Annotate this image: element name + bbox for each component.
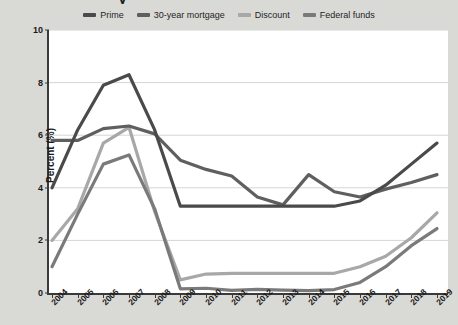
- legend-label: 30-year mortgage: [154, 10, 225, 20]
- y-axis-tick-label: 2: [38, 235, 43, 245]
- legend-item-prime[interactable]: Prime: [83, 10, 124, 20]
- y-axis-tick-label: 8: [38, 78, 43, 88]
- y-axis-tick-mark: [45, 82, 49, 83]
- legend-label: Discount: [255, 10, 290, 20]
- series-line-discount: [52, 127, 437, 280]
- legend-label: Federal funds: [320, 10, 375, 20]
- y-axis-tick-mark: [45, 135, 49, 136]
- legend-label: Prime: [100, 10, 124, 20]
- y-axis-tick-mark: [45, 293, 49, 294]
- legend-swatch-icon: [303, 13, 316, 17]
- chart-legend: Prime30-year mortgageDiscountFederal fun…: [0, 10, 458, 20]
- y-axis-tick-label: 10: [33, 25, 43, 35]
- y-axis-tick-label: 4: [38, 183, 43, 193]
- y-axis-tick-label: 6: [38, 130, 43, 140]
- legend-swatch-icon: [238, 13, 251, 17]
- y-axis-tick-label: 0: [38, 288, 43, 298]
- cropped-title: y: [118, 0, 127, 4]
- legend-item-discount[interactable]: Discount: [238, 10, 290, 20]
- legend-swatch-icon: [137, 13, 150, 17]
- y-axis-tick-mark: [45, 30, 49, 31]
- plot-area: Percent (%) 0246810200420052006200720082…: [47, 30, 448, 295]
- legend-item-federal-funds[interactable]: Federal funds: [303, 10, 375, 20]
- legend-swatch-icon: [83, 13, 96, 17]
- legend-item-30-year-mortgage[interactable]: 30-year mortgage: [137, 10, 225, 20]
- series-line-federal-funds: [52, 155, 437, 291]
- y-axis-tick-mark: [45, 240, 49, 241]
- chart-lines: [49, 30, 448, 293]
- y-axis-tick-mark: [45, 187, 49, 188]
- chart-page: y Prime30-year mortgageDiscountFederal f…: [0, 0, 458, 325]
